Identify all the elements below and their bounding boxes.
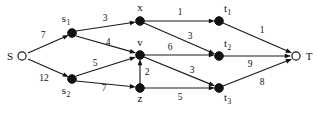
edge-weight-s2-v: 5 — [93, 58, 98, 68]
edge-t2-to-T — [223, 54, 291, 59]
edge-line — [223, 61, 287, 86]
edge-v-to-t3 — [144, 57, 215, 86]
node-label-T: T — [306, 50, 313, 62]
node-circle-hollow — [292, 52, 300, 60]
node-v[interactable]: v — [136, 36, 145, 59]
node-subscript-t2: 2 — [228, 43, 232, 52]
node-x[interactable]: x — [136, 1, 145, 25]
node-circle-filled — [136, 17, 145, 26]
flow-network-diagram: Ss1s2xvzt1t2t3T 7123457213635198 — [0, 0, 319, 114]
node-T[interactable]: T — [292, 50, 313, 62]
edge-line — [76, 59, 131, 76]
arrowhead-icon — [285, 48, 292, 53]
edge-weight-t1-T: 1 — [260, 25, 265, 35]
edge-t3-to-T — [223, 59, 292, 86]
edge-weight-z-t3: 5 — [178, 92, 183, 102]
node-t3[interactable]: t3 — [215, 84, 232, 106]
node-circle-filled — [215, 84, 224, 93]
node-circle-filled — [215, 52, 224, 61]
edge-z-to-t3 — [144, 86, 215, 91]
arrowhead-icon — [285, 59, 292, 63]
node-S[interactable]: S — [7, 50, 26, 62]
node-label-t1: t1 — [224, 2, 232, 17]
node-circle-filled — [68, 75, 77, 84]
node-label-x: x — [137, 1, 143, 13]
edge-weight-s1-v: 4 — [106, 37, 111, 47]
node-subscript-s2: 2 — [67, 90, 71, 99]
node-s2[interactable]: s2 — [62, 75, 77, 99]
edge-v-to-t2 — [144, 53, 215, 58]
edge-weight-v-t3: 3 — [190, 65, 195, 75]
edge-line — [144, 57, 210, 84]
edge-s2-to-v — [76, 57, 136, 76]
edge-weight-v-t2: 6 — [168, 42, 173, 52]
edge-S-to-s1 — [28, 35, 69, 53]
node-t2[interactable]: t2 — [215, 37, 232, 60]
node-circle-filled — [136, 84, 145, 93]
node-circle-filled — [68, 29, 77, 38]
edge-line — [144, 23, 210, 52]
arrowhead-icon — [209, 86, 215, 91]
edge-weight-z-v: 2 — [145, 67, 150, 77]
edge-x-to-t1 — [144, 19, 215, 24]
edge-line — [223, 23, 287, 51]
arrowhead-icon — [285, 54, 291, 59]
node-label-z: z — [138, 92, 143, 104]
node-subscript-t1: 1 — [228, 8, 232, 17]
node-subscript-s1: 1 — [67, 18, 71, 27]
graph-canvas: Ss1s2xvzt1t2t3T 7123457213635198 — [0, 0, 319, 114]
node-z[interactable]: z — [136, 84, 145, 104]
arrowhead-icon — [130, 84, 136, 89]
arrowhead-icon — [62, 35, 69, 40]
edge-weight-t2-T: 9 — [248, 59, 253, 69]
node-subscript-t3: 3 — [228, 97, 232, 106]
edge-z-to-v — [138, 59, 143, 84]
edge-line — [76, 23, 131, 31]
node-label-t3: t3 — [224, 91, 232, 106]
node-circle-filled — [215, 17, 224, 26]
edge-x-to-t2 — [144, 23, 215, 54]
node-label-t2: t2 — [224, 37, 232, 52]
node-label-v: v — [137, 36, 143, 48]
node-t1[interactable]: t1 — [215, 2, 232, 25]
edge-weight-S-s2: 12 — [39, 73, 49, 83]
nodes-layer: Ss1s2xvzt1t2t3T — [7, 1, 313, 106]
arrowhead-icon — [130, 21, 136, 26]
edge-t1-to-T — [223, 23, 292, 53]
node-label-S: S — [7, 50, 13, 62]
node-circle-hollow — [18, 52, 26, 60]
edge-weight-s1-x: 3 — [103, 13, 108, 23]
node-label-s2: s2 — [62, 84, 71, 99]
node-circle-filled — [136, 51, 145, 60]
node-label-s1: s1 — [62, 12, 71, 27]
edge-weight-x-t1: 1 — [178, 7, 183, 17]
edge-weight-t3-T: 8 — [260, 77, 265, 87]
edge-line — [28, 37, 64, 53]
arrowhead-icon — [209, 19, 215, 24]
edge-weight-S-s1: 7 — [41, 30, 46, 40]
arrowhead-icon — [129, 49, 136, 53]
edge-line — [76, 36, 131, 52]
edge-weight-x-t2: 3 — [188, 31, 193, 41]
arrowhead-icon — [138, 59, 143, 65]
arrowhead-icon — [62, 72, 69, 77]
arrowhead-icon — [129, 57, 136, 61]
edge-weight-s2-z: 7 — [102, 83, 107, 93]
node-s1[interactable]: s1 — [62, 12, 77, 37]
arrowhead-icon — [208, 82, 215, 86]
